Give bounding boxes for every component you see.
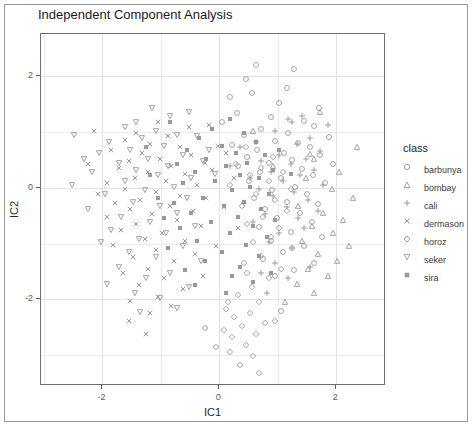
scatter-point-bombay xyxy=(334,258,341,265)
scatter-point-seker xyxy=(116,264,123,271)
scatter-point-seker xyxy=(180,243,187,250)
scatter-point-sira xyxy=(174,161,181,168)
scatter-point-cali xyxy=(264,289,271,296)
gridline-vertical xyxy=(161,34,162,384)
scatter-point-seker xyxy=(147,219,154,226)
scatter-point-bombay xyxy=(346,243,353,250)
gridline-horizontal xyxy=(41,355,384,356)
x-tick-label: 2 xyxy=(333,392,338,402)
legend-item-seker[interactable]: seker xyxy=(402,251,472,269)
legend-title: class xyxy=(402,142,472,154)
scatter-point-horoz xyxy=(258,165,265,172)
scatter-point-barbunya xyxy=(258,126,265,133)
scatter-point-barbunya xyxy=(318,234,325,241)
scatter-point-seker xyxy=(155,172,162,179)
scatter-point-seker xyxy=(127,146,134,153)
scatter-point-dermason xyxy=(118,226,125,233)
scatter-point-bombay xyxy=(308,222,315,229)
scatter-point-bombay xyxy=(314,250,321,257)
scatter-point-seker xyxy=(180,152,187,159)
legend-item-label: barbunya xyxy=(424,165,462,175)
legend-items: barbunyabombaycalidermasonhorozsekersira xyxy=(402,161,472,287)
x-tick-label: 0 xyxy=(216,392,221,402)
scatter-point-sira xyxy=(182,267,189,274)
scatter-point-sira xyxy=(237,172,244,179)
scatter-point-barbunya xyxy=(330,161,337,168)
scatter-point-barbunya xyxy=(310,172,317,179)
scatter-point-sira xyxy=(276,146,283,153)
scatter-point-seker xyxy=(104,281,111,288)
legend-item-horoz[interactable]: horoz xyxy=(402,233,472,251)
legend-item-barbunya[interactable]: barbunya xyxy=(402,161,472,179)
scatter-point-seker xyxy=(139,135,146,142)
scatter-point-barbunya xyxy=(256,224,263,231)
scatter-point-bombay xyxy=(317,109,324,116)
scatter-point-dermason xyxy=(120,269,127,276)
scatter-point-dermason xyxy=(147,310,154,317)
scatter-point-sira xyxy=(196,135,203,142)
y-tick-label: 2 xyxy=(14,70,33,80)
scatter-point-seker xyxy=(153,127,160,134)
gridline-vertical xyxy=(278,34,279,384)
scatter-point-horoz xyxy=(231,314,238,321)
scatter-point-dermason xyxy=(94,191,101,198)
legend-item-cali[interactable]: cali xyxy=(402,197,472,215)
scatter-point-horoz xyxy=(229,334,236,341)
scatter-point-bombay xyxy=(311,155,318,162)
scatter-point-seker xyxy=(186,109,193,116)
scatter-point-dermason xyxy=(162,178,169,185)
scatter-point-barbunya xyxy=(242,75,249,82)
scatter-point-sira xyxy=(264,234,271,241)
scatter-point-sira xyxy=(235,213,242,220)
scatter-point-seker xyxy=(106,139,113,146)
scatter-point-dermason xyxy=(108,146,115,153)
scatter-point-cali xyxy=(285,275,292,282)
scatter-point-barbunya xyxy=(252,61,259,68)
legend-item-dermason[interactable]: dermason xyxy=(402,215,472,233)
legend-item-label: bombay xyxy=(424,183,456,193)
scatter-point-barbunya xyxy=(301,243,308,250)
scatter-point-horoz xyxy=(201,325,208,332)
scatter-point-dermason xyxy=(137,197,144,204)
scatter-point-barbunya xyxy=(229,142,236,149)
scatter-point-horoz xyxy=(252,331,259,338)
scatter-point-dermason xyxy=(188,152,195,159)
scatter-point-seker xyxy=(143,275,150,282)
scatter-point-sira xyxy=(176,225,183,232)
scatter-point-dermason xyxy=(155,118,162,125)
scatter-point-barbunya xyxy=(276,99,283,106)
scatter-point-sira xyxy=(241,130,248,137)
scatter-point-horoz xyxy=(250,353,257,360)
legend-item-bombay[interactable]: bombay xyxy=(402,179,472,197)
scatter-point-sira xyxy=(272,217,279,224)
scatter-point-seker xyxy=(166,269,173,276)
scatter-point-dermason xyxy=(165,133,172,140)
scatter-point-sira xyxy=(266,191,273,198)
scatter-point-horoz xyxy=(232,161,239,168)
legend-item-label: sira xyxy=(424,273,439,283)
scatter-point-seker xyxy=(131,289,138,296)
scatter-point-sira xyxy=(192,282,199,289)
scatter-point-sira xyxy=(250,222,257,229)
scatter-point-sira xyxy=(250,278,257,285)
scatter-point-bombay xyxy=(320,210,327,217)
scatter-point-sira xyxy=(219,249,226,256)
scatter-point-sira xyxy=(244,159,251,166)
scatter-point-seker xyxy=(170,183,177,190)
scatter-point-bombay xyxy=(299,237,306,244)
scatter-point-dermason xyxy=(153,247,160,254)
scatter-point-barbunya xyxy=(227,94,234,101)
legend-item-label: dermason xyxy=(424,219,464,229)
scatter-point-horoz xyxy=(238,323,245,330)
scatter-point-dermason xyxy=(174,217,181,224)
scatter-point-cali xyxy=(307,264,314,271)
scatter-point-seker xyxy=(89,169,96,176)
triangle-up-icon xyxy=(402,180,419,197)
scatter-point-seker xyxy=(211,170,218,177)
scatter-point-horoz xyxy=(235,292,242,299)
scatter-point-seker xyxy=(69,182,76,189)
legend-item-sira[interactable]: sira xyxy=(402,269,472,287)
scatter-point-seker xyxy=(121,178,128,185)
scatter-point-seker xyxy=(80,155,87,162)
scatter-point-dermason xyxy=(112,200,119,207)
